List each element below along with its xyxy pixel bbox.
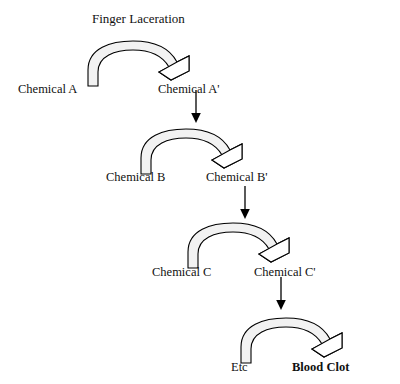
- diagram-canvas: Finger Laceration Chemical A Chemical A'…: [0, 0, 400, 384]
- stage-2-reactant-label: Chemical B: [106, 171, 165, 184]
- stage-3-reactant-label: Chemical C: [152, 266, 211, 279]
- stage-4-reactant-label: Etc: [231, 361, 248, 374]
- stage-3-curved-block-arrow-icon: [185, 222, 307, 270]
- stage-4-product-label: Blood Clot: [292, 361, 349, 374]
- stage-2-curved-block-arrow-icon: [138, 128, 260, 176]
- stage-2-product-label: Chemical B': [206, 171, 268, 184]
- link-2-down-arrow-icon: [237, 186, 253, 220]
- stage-1-curved-block-arrow-icon: [85, 40, 207, 88]
- link-1-down-arrow-icon: [188, 90, 204, 124]
- link-3-down-arrow-icon: [273, 277, 289, 311]
- stage-4-curved-block-arrow-icon: [238, 317, 360, 365]
- diagram-title: Finger Laceration: [92, 12, 185, 25]
- stage-1-reactant-label: Chemical A: [18, 83, 77, 96]
